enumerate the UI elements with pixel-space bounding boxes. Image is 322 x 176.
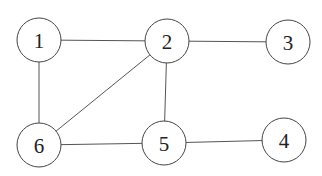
node-5: 5 <box>142 121 186 165</box>
node-1: 1 <box>17 18 61 62</box>
node-label: 3 <box>283 31 294 55</box>
node-2: 2 <box>145 19 189 63</box>
node-label: 1 <box>34 29 45 53</box>
node-3: 3 <box>266 20 310 64</box>
node-label: 4 <box>279 129 290 153</box>
graph-canvas: 123456 <box>0 0 322 176</box>
node-label: 2 <box>162 30 173 54</box>
node-label: 5 <box>159 132 170 156</box>
node-4: 4 <box>262 118 306 162</box>
node-6: 6 <box>17 123 61 167</box>
node-label: 6 <box>34 134 45 158</box>
nodes-layer: 123456 <box>17 18 310 167</box>
graph-diagram: 123456 <box>0 0 322 176</box>
